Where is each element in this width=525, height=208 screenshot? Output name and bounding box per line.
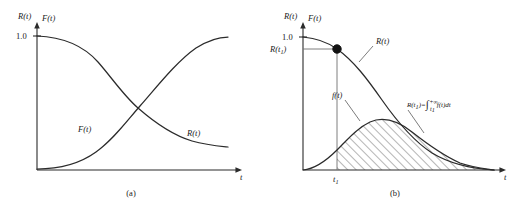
marker-point-rt1 — [333, 45, 341, 53]
curve-label-reliability-b: R(t) — [375, 36, 389, 46]
y-tick-label-rt1: R(t1) — [269, 44, 286, 55]
shaded-integral-region — [303, 119, 494, 170]
curve-label-reliability-a: R(t) — [186, 128, 200, 138]
y-axis-label-left: R(t) — [17, 11, 31, 21]
panel-a: R(t) F(t) 1.0 t F(t) R(t) (a) — [0, 0, 262, 208]
figure-root: R(t) F(t) 1.0 t F(t) R(t) (a) — [0, 0, 525, 208]
formula-text: R(t1)=∫ +∞t1f(t)dt — [406, 98, 452, 114]
panel-b: R(t) F(t) 1.0 R(t1) t1 t R(t) f(t) R(t1)… — [262, 0, 525, 208]
formula-annotation: R(t1)=∫ +∞t1f(t)dt — [406, 98, 452, 114]
y-tick-label-1.0: 1.0 — [16, 31, 27, 41]
leader-line-formula — [408, 110, 424, 133]
y-axis-label-left: R(t) — [283, 11, 297, 21]
panel-a-caption: (a) — [126, 188, 136, 198]
leader-line-reliability — [359, 46, 373, 62]
leader-line-density — [345, 100, 360, 121]
y-axis-label-right: F(t) — [41, 13, 55, 23]
x-tick-label-t1: t1 — [333, 174, 338, 185]
x-axis-label: t — [240, 172, 243, 182]
panel-a-axes — [37, 28, 236, 170]
curve-label-failure-a: F(t) — [77, 124, 91, 134]
y-tick-label-1.0: 1.0 — [282, 32, 293, 42]
x-axis-label: t — [504, 172, 507, 182]
y-axis-label-right: F(t) — [307, 13, 321, 23]
curve-label-density-b: f(t) — [332, 90, 343, 100]
panel-b-caption: (b) — [390, 188, 400, 198]
